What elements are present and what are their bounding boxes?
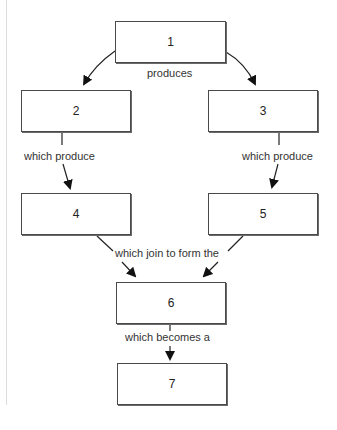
node-1: 1 bbox=[115, 21, 226, 63]
edge-label-which-produce-left: which produce bbox=[24, 150, 95, 163]
edge-label-which-produce-right: which produce bbox=[242, 150, 313, 163]
arrow-4-to-6-b bbox=[122, 262, 135, 276]
node-label: 5 bbox=[260, 207, 267, 221]
node-label: 1 bbox=[167, 35, 174, 49]
node-7: 7 bbox=[117, 363, 227, 405]
node-4: 4 bbox=[21, 193, 131, 235]
node-label: 2 bbox=[73, 104, 80, 118]
node-5: 5 bbox=[208, 193, 318, 235]
arrow-1-to-3 bbox=[226, 52, 255, 84]
arrow-4-to-6 bbox=[97, 236, 113, 251]
node-6: 6 bbox=[116, 282, 226, 324]
node-3: 3 bbox=[208, 90, 318, 132]
arrow-5-to-6 bbox=[228, 236, 243, 251]
node-label: 7 bbox=[169, 377, 176, 391]
node-label: 6 bbox=[168, 296, 175, 310]
arrow-3-to-5-b bbox=[272, 164, 278, 187]
edge-label-which-becomes: which becomes a bbox=[125, 331, 210, 344]
arrow-2-to-4-b bbox=[63, 164, 70, 188]
arrow-1-to-2 bbox=[84, 51, 115, 84]
edge-label-produces: produces bbox=[147, 67, 192, 80]
node-label: 4 bbox=[73, 207, 80, 221]
edge-label-which-join: which join to form the bbox=[115, 247, 219, 260]
node-label: 3 bbox=[260, 104, 267, 118]
node-2: 2 bbox=[21, 90, 131, 132]
arrow-5-to-6-b bbox=[204, 262, 218, 276]
